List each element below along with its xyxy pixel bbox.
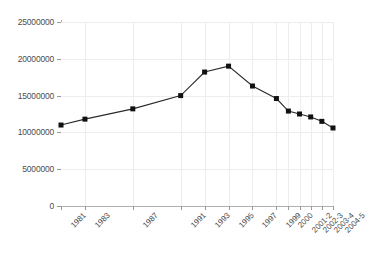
x-axis-line <box>58 206 333 207</box>
x-axis-tick <box>322 206 323 210</box>
data-point-marker <box>308 114 313 119</box>
x-axis-tick <box>85 206 86 210</box>
data-point-marker <box>226 64 231 69</box>
x-axis-tick <box>229 206 230 210</box>
x-axis-tick <box>205 206 206 210</box>
data-point-marker <box>130 106 135 111</box>
x-axis-tick <box>133 206 134 210</box>
y-axis-label: 0 <box>49 201 54 211</box>
x-axis-tick <box>181 206 182 210</box>
x-axis-label: 1997 <box>261 211 280 230</box>
x-axis-tick <box>311 206 312 210</box>
series-line <box>61 66 333 128</box>
x-axis-label: 1983 <box>93 211 112 230</box>
x-axis-tick <box>300 206 301 210</box>
series-layer <box>61 22 333 206</box>
data-point-marker <box>331 125 336 130</box>
x-axis-tick <box>276 206 277 210</box>
y-axis-label: 10000000 <box>18 127 54 137</box>
data-point-marker <box>82 117 87 122</box>
plot-area: 0500000010000000150000002000000025000000 <box>61 22 333 206</box>
x-axis-label: 1987 <box>141 211 160 230</box>
data-point-marker <box>286 109 291 114</box>
y-axis-label: 5000000 <box>22 164 54 174</box>
data-point-marker <box>178 93 183 98</box>
data-point-marker <box>297 112 302 117</box>
x-axis-tick <box>333 206 334 210</box>
x-axis-tick <box>288 206 289 210</box>
x-axis-label-text: 1981 <box>69 211 88 230</box>
x-axis-label-text: 1991 <box>189 211 208 230</box>
data-point-marker <box>202 70 207 75</box>
x-axis-label: 1995 <box>237 211 256 230</box>
x-axis-label-text: 1987 <box>141 211 160 230</box>
x-axis-label: 1991 <box>189 211 208 230</box>
x-axis-label-text: 1983 <box>93 211 112 230</box>
x-axis-label-text: 1995 <box>237 211 256 230</box>
data-point-marker <box>274 96 279 101</box>
x-axis-label: 1981 <box>69 211 88 230</box>
y-axis-label: 25000000 <box>18 17 54 27</box>
data-point-marker <box>319 119 324 124</box>
y-axis-label: 20000000 <box>18 54 54 64</box>
data-point-marker <box>250 84 255 89</box>
x-axis-label-text: 1993 <box>213 211 232 230</box>
x-axis-tick <box>252 206 253 210</box>
x-axis-label-text: 1997 <box>261 211 280 230</box>
x-axis-tick <box>61 206 62 210</box>
x-axis-label: 1993 <box>213 211 232 230</box>
y-axis-label: 15000000 <box>18 91 54 101</box>
gridline-vertical <box>333 22 334 206</box>
data-point-marker <box>59 123 64 128</box>
